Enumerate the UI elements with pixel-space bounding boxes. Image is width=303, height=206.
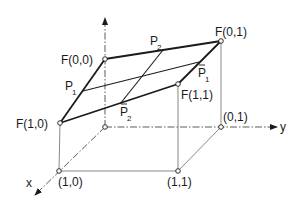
label-p1: P 1 [65, 79, 77, 97]
node-c11 [176, 169, 181, 174]
label-p1bar: P 1 [198, 65, 210, 84]
label-y-axis: y [280, 120, 286, 134]
label-f10: F(1,0) [16, 117, 48, 131]
label-f00: F(0,0) [61, 53, 93, 67]
label-c10: (1,0) [58, 175, 83, 189]
node-c10 [57, 169, 62, 174]
label-c01: (0,1) [223, 110, 248, 124]
bilinear-patch-diagram: F(0,0) F(0,1) F(1,0) F(1,1) (0,1) (1,0) … [0, 0, 303, 206]
label-f11: F(1,1) [181, 88, 213, 102]
node-f01 [219, 39, 224, 44]
label-p2: P 2 [150, 34, 162, 52]
svg-text:1: 1 [205, 75, 210, 84]
node-f00 [103, 57, 108, 62]
label-c11: (1,1) [167, 175, 192, 189]
node-c01 [219, 125, 224, 130]
label-p2bar: P 2 [120, 104, 132, 123]
svg-text:2: 2 [127, 114, 132, 123]
floor-square [59, 127, 221, 171]
node-f11 [176, 82, 181, 87]
node-f10 [58, 121, 63, 126]
label-x-axis: x [26, 176, 32, 190]
label-f01: F(0,1) [215, 25, 247, 39]
svg-text:1: 1 [72, 88, 77, 97]
svg-text:2: 2 [157, 43, 162, 52]
node-origin [103, 125, 108, 130]
